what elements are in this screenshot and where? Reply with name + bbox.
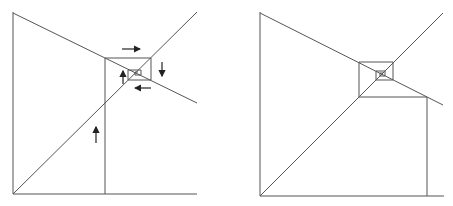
cobweb-path [359,62,427,196]
cobweb-path [105,58,151,194]
cobweb-figure [0,0,453,206]
decreasing-curve [260,13,443,105]
right-panel [260,12,444,196]
left-panel [13,12,197,194]
diagonal-line [260,13,443,196]
